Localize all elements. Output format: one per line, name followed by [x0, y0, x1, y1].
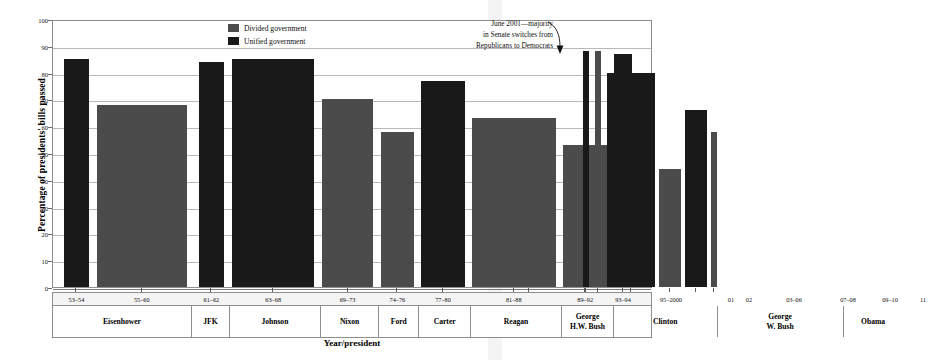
president-cell-eisenhower: Eisenhower: [53, 306, 191, 337]
year-label-81-88: 81–88: [484, 293, 544, 305]
year-range-row: 53–5455–6061–6263–6869–7374–7677–8081–88…: [52, 292, 652, 305]
y-tick-mark-10: [48, 261, 52, 262]
year-label-95-2000: 95–2000: [641, 293, 701, 305]
annotation-line-2: in Senate switches from: [398, 29, 553, 40]
plot-area: [52, 20, 652, 288]
y-tick-label-20: 20: [24, 231, 48, 238]
president-name-line-1: Johnson: [261, 317, 288, 327]
legend: Divided government Unified government: [228, 22, 307, 48]
legend-swatch-unified: [228, 37, 239, 45]
president-cell-johnson: Johnson: [229, 306, 320, 337]
bar-07-08: [659, 169, 681, 287]
y-tick-label-40: 40: [24, 177, 48, 184]
bar-63-68: [232, 59, 314, 287]
bar-95-2000: [503, 156, 555, 287]
president-name-line-1: Nixon: [340, 317, 359, 327]
y-tick-mark-0: [48, 288, 52, 289]
president-cell-clinton: Clinton: [613, 306, 717, 337]
y-tick-mark-80: [48, 74, 52, 75]
president-name-line-1: George: [767, 312, 794, 322]
president-cell-ford: Ford: [378, 306, 418, 337]
bar-55-60: [97, 105, 187, 287]
x-axis-title: Year/president: [52, 338, 652, 348]
year-label-63-68: 63–68: [243, 293, 303, 305]
x-tick-mark-09-10: [695, 288, 696, 292]
y-tick-mark-20: [48, 234, 52, 235]
x-tick-mark-11: [713, 288, 714, 292]
year-label-61-62: 61–62: [181, 293, 241, 305]
year-label-55-60: 55–60: [112, 293, 172, 305]
legend-label-unified: Unified government: [244, 37, 305, 46]
bar-series: [53, 21, 651, 287]
y-tick-mark-30: [48, 208, 52, 209]
annotation-senate-switch: June 2001—majority in Senate switches fr…: [398, 18, 553, 52]
bar-03-06: [607, 73, 655, 287]
y-tick-mark-40: [48, 181, 52, 182]
y-tick-label-10: 10: [24, 258, 48, 265]
year-label-53-54: 53–54: [46, 293, 106, 305]
y-tick-mark-70: [48, 100, 52, 101]
legend-item-divided: Divided government: [228, 22, 307, 34]
y-tick-mark-100: [48, 20, 52, 21]
bar-61-62: [199, 62, 224, 287]
bar-09-10: [685, 110, 707, 287]
bar-11: [711, 132, 717, 287]
bar-02: [595, 51, 601, 287]
president-name-line-2: W. Bush: [767, 322, 794, 332]
bar-53-54: [64, 59, 89, 287]
annotation-line-1: June 2001—majority: [398, 18, 553, 29]
year-label-03-06: 03–06: [764, 293, 824, 305]
president-cell-obama: Obama: [843, 306, 903, 337]
legend-label-divided: Divided government: [244, 24, 307, 33]
y-tick-mark-50: [48, 154, 52, 155]
y-tick-label-80: 80: [24, 70, 48, 77]
legend-swatch-divided: [228, 24, 239, 32]
y-tick-label-50: 50: [24, 151, 48, 158]
president-cell-george-h-w--bush: GeorgeH.W. Bush: [561, 306, 613, 337]
y-tick-label-90: 90: [24, 43, 48, 50]
president-name-line-1: JFK: [203, 317, 217, 327]
bar-74-76: [381, 132, 414, 287]
y-tick-label-70: 70: [24, 97, 48, 104]
president-name-line-1: Carter: [434, 317, 456, 327]
legend-item-unified: Unified government: [228, 35, 307, 47]
president-name-line-1: Ford: [391, 317, 407, 327]
y-tick-mark-90: [48, 47, 52, 48]
y-tick-label-60: 60: [24, 124, 48, 131]
president-row: EisenhowerJFKJohnsonNixonFordCarterReaga…: [52, 305, 652, 338]
president-name-line-1: Eisenhower: [103, 317, 141, 327]
president-cell-jfk: JFK: [191, 306, 229, 337]
y-tick-mark-60: [48, 127, 52, 128]
x-tick-mark-07-08: [669, 288, 670, 292]
bar-01: [583, 51, 589, 287]
y-tick-label-100: 100: [24, 17, 48, 24]
president-cell-nixon: Nixon: [320, 306, 378, 337]
year-label-11: 11: [893, 293, 930, 305]
president-name-line-1: Clinton: [653, 317, 677, 327]
y-tick-label-30: 30: [24, 204, 48, 211]
president-name-line-2: H.W. Bush: [570, 322, 605, 332]
gridline-0: [53, 289, 651, 290]
annotation-line-3: Republicans to Democrats: [398, 40, 553, 51]
y-tick-label-0: 0: [24, 285, 48, 292]
president-name-line-1: Reagan: [504, 317, 528, 327]
year-label-77-80: 77–80: [413, 293, 473, 305]
president-name-line-1: Obama: [861, 317, 885, 327]
bar-77-80: [421, 81, 465, 287]
president-cell-george-w--bush: GeorgeW. Bush: [717, 306, 843, 337]
president-name-line-1: George: [570, 312, 605, 322]
bar-69-73: [322, 99, 374, 287]
president-cell-reagan: Reagan: [470, 306, 561, 337]
x-axis-labels: 53–5455–6061–6263–6869–7374–7677–8081–88…: [52, 292, 652, 338]
president-cell-carter: Carter: [418, 306, 470, 337]
